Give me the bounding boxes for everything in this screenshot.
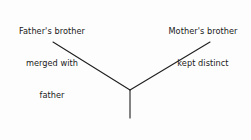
kinship-diagram: Father's brother merged with father Moth… xyxy=(0,0,251,140)
label-mothers-brother: Mother's brother kept distinct xyxy=(155,5,251,90)
label-fathers-brother: Father's brother merged with father xyxy=(4,5,100,122)
label-mothers-brother-line-2: kept distinct xyxy=(155,58,251,69)
label-fathers-brother-line-3: father xyxy=(4,90,100,101)
label-mothers-brother-line-1: Mother's brother xyxy=(155,26,251,37)
label-fathers-brother-line-2: merged with xyxy=(4,58,100,69)
label-ego-speaker: Ego (Speaker) xyxy=(81,121,181,140)
label-fathers-brother-line-1: Father's brother xyxy=(4,26,100,37)
